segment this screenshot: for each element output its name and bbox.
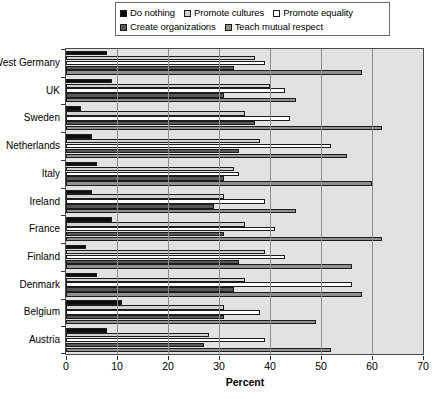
- bar: [66, 98, 296, 102]
- bar: [66, 176, 224, 180]
- legend-swatch-icon: [225, 24, 232, 31]
- bar: [66, 149, 239, 153]
- bar: [66, 264, 352, 268]
- bar: [66, 328, 107, 332]
- x-axis-tick-label: 0: [63, 361, 69, 372]
- bar: [66, 343, 204, 347]
- y-axis-label: Belgium: [24, 307, 60, 317]
- bar: [66, 260, 239, 264]
- y-axis-label: Italy: [42, 169, 60, 179]
- bar-group: [66, 132, 423, 160]
- y-axis-tick: [61, 160, 65, 161]
- bar: [66, 232, 224, 236]
- y-axis-tick: [61, 215, 65, 216]
- gridline: [168, 49, 169, 354]
- legend-item[interactable]: Create organizations: [120, 22, 216, 32]
- bar: [66, 116, 290, 120]
- bar: [66, 134, 92, 138]
- gridline: [117, 49, 118, 354]
- y-axis-label: France: [29, 224, 60, 234]
- bar: [66, 292, 362, 296]
- y-axis-label: Finland: [27, 252, 60, 262]
- bar-group: [66, 104, 423, 132]
- gridline: [372, 49, 373, 354]
- x-axis: Percent 010203040506070: [0, 356, 438, 396]
- bar: [66, 237, 382, 241]
- legend-item[interactable]: Teach mutual respect: [225, 22, 323, 32]
- y-axis-label: Netherlands: [6, 141, 60, 151]
- legend-label: Teach mutual respect: [235, 22, 323, 32]
- bar-group: [66, 215, 423, 243]
- y-axis-label: West Germany: [0, 58, 60, 68]
- y-axis-tick: [61, 243, 65, 244]
- bar: [66, 273, 97, 277]
- bar: [66, 250, 265, 254]
- y-axis-label: UK: [46, 86, 60, 96]
- bar: [66, 255, 285, 259]
- bar: [66, 66, 234, 70]
- x-axis-tick-label: 60: [366, 361, 378, 372]
- gridline: [321, 49, 322, 354]
- y-axis-tick: [61, 188, 65, 189]
- bar: [66, 315, 224, 319]
- y-axis-label: Austria: [29, 335, 60, 345]
- legend-row: Do nothingPromote culturesPromote equali…: [120, 6, 385, 20]
- bar: [66, 278, 245, 282]
- bar: [66, 227, 275, 231]
- y-axis-tick: [61, 49, 65, 50]
- y-axis-tick: [61, 77, 65, 78]
- bar: [66, 93, 224, 97]
- x-axis-tick-label: 70: [417, 361, 429, 372]
- bar: [66, 162, 97, 166]
- x-axis-tick-label: 50: [315, 361, 327, 372]
- bar: [66, 310, 260, 314]
- legend-label: Promote cultures: [194, 8, 264, 18]
- legend-label: Create organizations: [130, 22, 216, 32]
- bar: [66, 217, 112, 221]
- bar: [66, 222, 245, 226]
- bar: [66, 61, 265, 65]
- bar: [66, 79, 112, 83]
- bar: [66, 320, 316, 324]
- bar: [66, 204, 214, 208]
- legend-item[interactable]: Promote equality: [273, 8, 353, 18]
- bar: [66, 51, 107, 55]
- bar: [66, 154, 347, 158]
- bar-group: [66, 326, 423, 354]
- legend-label: Do nothing: [130, 8, 175, 18]
- legend-item[interactable]: Promote cultures: [184, 8, 264, 18]
- bar: [66, 194, 224, 198]
- y-axis-tick: [61, 353, 65, 354]
- gridline: [219, 49, 220, 354]
- x-axis-tick-label: 40: [264, 361, 276, 372]
- plot-area: [65, 48, 424, 355]
- bar: [66, 167, 234, 171]
- bar: [66, 106, 81, 110]
- bar: [66, 245, 86, 249]
- bar: [66, 56, 255, 60]
- bar: [66, 305, 224, 309]
- bar-groups: [66, 49, 423, 354]
- bar-group: [66, 160, 423, 188]
- y-axis-tick: [61, 104, 65, 105]
- legend-swatch-icon: [120, 24, 127, 31]
- y-axis-tick: [61, 326, 65, 327]
- bar-group: [66, 188, 423, 216]
- legend-label: Promote equality: [283, 8, 353, 18]
- y-axis-label: Denmark: [19, 280, 60, 290]
- bar: [66, 88, 285, 92]
- bar: [66, 139, 260, 143]
- legend-swatch-icon: [273, 10, 280, 17]
- bar-group: [66, 271, 423, 299]
- chart-figure: Do nothingPromote culturesPromote equali…: [0, 0, 438, 399]
- bar: [66, 172, 239, 176]
- x-axis-title: Percent: [226, 376, 265, 388]
- bar-group: [66, 77, 423, 105]
- bar: [66, 333, 209, 337]
- chart-legend: Do nothingPromote culturesPromote equali…: [115, 2, 390, 36]
- gridline: [270, 49, 271, 354]
- x-axis-tick-label: 20: [162, 361, 174, 372]
- y-axis-tick: [61, 271, 65, 272]
- y-axis: West GermanyUKSwedenNetherlandsItalyIrel…: [0, 48, 63, 355]
- legend-item[interactable]: Do nothing: [120, 8, 175, 18]
